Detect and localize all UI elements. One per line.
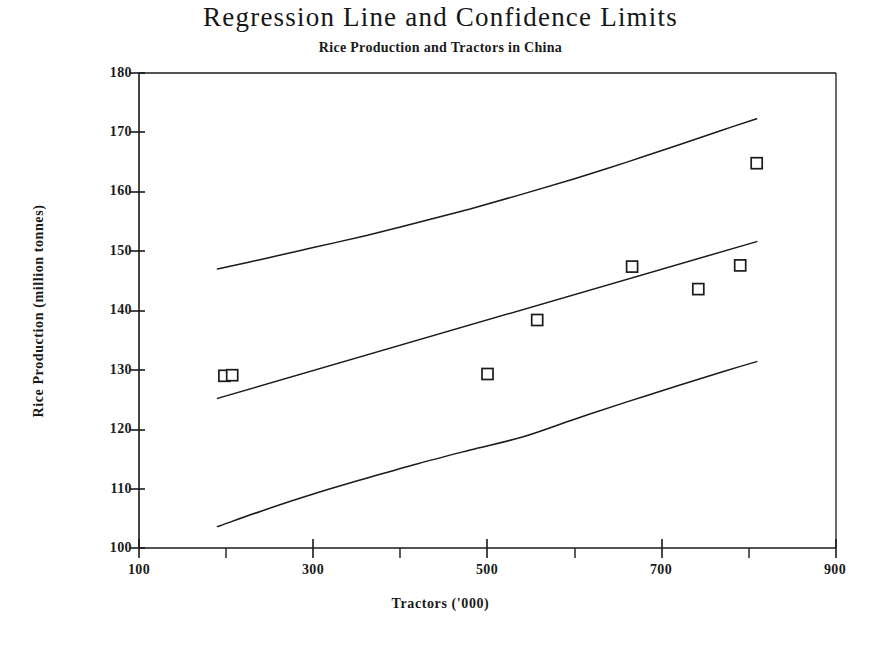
data-point-marker bbox=[532, 315, 543, 326]
data-point-marker bbox=[482, 369, 493, 380]
data-series-layer bbox=[217, 119, 756, 527]
y-axis-ticks bbox=[130, 73, 145, 548]
data-point-marker bbox=[627, 261, 638, 272]
data-point-marker bbox=[735, 260, 746, 271]
data-point-marker bbox=[227, 370, 238, 381]
plot-area bbox=[0, 0, 881, 650]
series-line-1 bbox=[217, 119, 756, 269]
data-points-layer bbox=[219, 158, 762, 382]
chart-figure: Regression Line and Confidence Limits Ri… bbox=[0, 0, 881, 650]
series-line-3 bbox=[217, 362, 756, 527]
data-point-marker bbox=[693, 284, 704, 295]
axis-frame bbox=[139, 73, 836, 548]
data-point-marker bbox=[751, 158, 762, 169]
